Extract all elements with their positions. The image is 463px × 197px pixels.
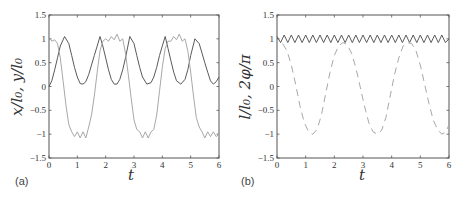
panel-b: −1.5−1−0.500.511.5 0123456 t l/l₀, 2φ/π … (236, 10, 452, 187)
y-tick-label: 1 (270, 34, 275, 44)
panel-b-ticks (277, 15, 449, 158)
panel-a-x-axis-label: t (128, 166, 135, 184)
y-tick-label: −1 (264, 129, 274, 139)
panel-b-series (277, 35, 449, 134)
series-line-x-l0 (49, 37, 219, 87)
figure: −1.5−1−0.500.511.5 0123456 t x/l₀, y/l₀ … (0, 0, 463, 197)
panel-b-y-axis-label: l/l₀, 2φ/π (236, 53, 254, 119)
x-tick-label: 5 (418, 160, 423, 170)
y-tick-label: 1 (42, 34, 47, 44)
panel-a-series (49, 34, 219, 138)
series-line-y-l0 (49, 34, 219, 138)
y-tick-label: 1.5 (35, 10, 47, 20)
panel-a-label: (a) (15, 175, 28, 187)
x-tick-label: 5 (188, 160, 193, 170)
y-tick-label: −1.5 (30, 153, 47, 163)
x-tick-label: 4 (160, 160, 165, 170)
x-tick-label: 4 (389, 160, 394, 170)
x-tick-label: 6 (447, 160, 452, 170)
y-tick-label: −0.5 (258, 105, 275, 115)
x-tick-label: 1 (303, 160, 308, 170)
x-tick-label: 1 (75, 160, 80, 170)
y-tick-label: 1.5 (263, 10, 275, 20)
panel-a-y-tick-labels: −1.5−1−0.500.511.5 (30, 10, 47, 163)
panel-b-x-axis-label: t (359, 166, 366, 184)
y-tick-label: 0.5 (35, 58, 47, 68)
x-tick-label: 0 (47, 160, 52, 170)
panel-b-axes-box (277, 15, 449, 158)
panel-b-y-tick-labels: −1.5−1−0.500.511.5 (258, 10, 275, 163)
series-line-2- (283, 43, 449, 135)
y-tick-label: −1.5 (258, 153, 275, 163)
x-tick-label: 2 (332, 160, 337, 170)
panel-b-plot-area (277, 15, 449, 158)
y-tick-label: −0.5 (30, 105, 47, 115)
panel-a-y-axis-label: x/l₀, y/l₀ (8, 58, 26, 116)
y-tick-label: 0 (42, 82, 47, 92)
y-tick-label: 0 (270, 82, 275, 92)
y-tick-label: −1 (36, 129, 46, 139)
y-tick-label: 0.5 (263, 58, 275, 68)
panel-a: −1.5−1−0.500.511.5 0123456 t x/l₀, y/l₀ … (8, 10, 222, 187)
x-tick-label: 2 (103, 160, 108, 170)
panel-b-label: (b) (241, 175, 254, 187)
x-tick-label: 6 (217, 160, 222, 170)
series-line-l-l0 (277, 35, 449, 43)
panel-a-plot-area (49, 15, 219, 158)
x-tick-label: 0 (275, 160, 280, 170)
panel-a-x-tick-labels: 0123456 (47, 160, 222, 170)
